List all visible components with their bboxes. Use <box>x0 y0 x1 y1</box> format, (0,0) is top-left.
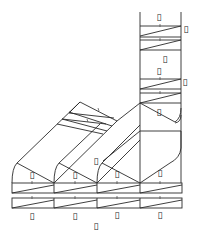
label-col3-bottom: ▯ <box>115 211 120 220</box>
label-col1-upper: ▯ <box>30 171 35 180</box>
structure-diagram <box>0 0 202 246</box>
label-mid-column: ▯ <box>94 157 99 166</box>
label-tower-right-1: ▯ <box>184 25 189 34</box>
label-col2-bottom: ▯ <box>73 212 78 221</box>
label-tower-right-2: ▯ <box>183 78 188 87</box>
label-tower-top: ▯ <box>157 13 162 22</box>
label-col4-bottom: ▯ <box>158 211 163 220</box>
label-col1-bottom: ▯ <box>30 212 35 221</box>
label-center-bottom: ▯ <box>94 222 99 231</box>
label-tower-lower: ▯ <box>157 108 162 117</box>
label-col4-upper: ▯ <box>158 169 163 178</box>
tower <box>140 12 181 183</box>
label-col3-upper: ▯ <box>115 170 120 179</box>
label-tower-mid-right: ▯ <box>163 55 168 64</box>
label-tower-mid: ▯ <box>157 67 162 76</box>
base-rows <box>12 181 182 208</box>
label-col2-upper: ▯ <box>73 171 78 180</box>
